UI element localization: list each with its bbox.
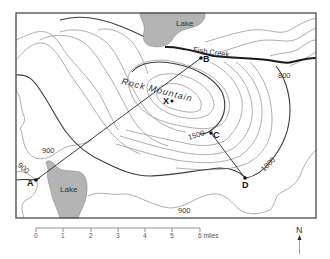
point-d: D [242,176,249,190]
scale-tick-0: 0 [34,232,38,239]
scale-tick-4: 4 [143,232,147,239]
scale-tick-3: 3 [116,232,120,239]
point-d-label: D [242,180,249,190]
lake-southwest-label: Lake [60,185,78,194]
lake-north-label: Lake [176,19,194,28]
point-a-label: A [27,178,34,188]
scale-tick-5: 5 [170,232,174,239]
contour-label-800: 800 [278,71,291,80]
lake-north [140,13,205,47]
profile-line-a-b [36,58,201,180]
fish-creek [165,47,316,63]
contour-label-900-upper: 900 [42,146,55,155]
contour-label-900-south: 900 [178,206,191,215]
north-label: N [296,225,303,235]
scale-tick-6: 6 miles [198,232,219,239]
north-arrow-head-icon [298,235,302,240]
point-c: C [209,130,220,140]
contour-label-1000: 1000 [259,155,277,173]
point-a: A [27,178,38,188]
scale-bar: 0 1 2 3 4 5 6 miles [34,228,219,239]
contour-label-900-lower: 900 [16,161,31,176]
north-arrow: N [296,225,303,254]
point-c-label: C [213,130,220,140]
topographic-map: A B X C D Lake Lake Fish Creek Rock Moun… [0,0,330,259]
scale-tick-2: 2 [89,232,93,239]
rock-mountain-label: Rock Mountain [121,76,194,103]
fish-creek-label: Fish Creek [193,45,230,59]
contour-label-1500: 1500 [187,128,206,142]
scale-tick-1: 1 [61,232,65,239]
